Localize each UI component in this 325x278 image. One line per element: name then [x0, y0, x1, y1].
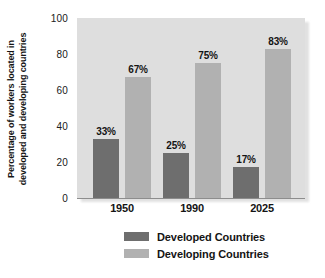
y-axis-ticks: 100806040200	[38, 12, 72, 204]
bar-value-label: 33%	[96, 126, 115, 137]
bar-group: 33%67%	[89, 18, 155, 198]
legend-item-developed-countries[interactable]: Developed Countries	[124, 228, 314, 245]
bar-developing-countries-1990: 75%	[195, 63, 221, 198]
x-tick-label-2025: 2025	[250, 202, 274, 214]
bar-developing-countries-1950: 67%	[125, 77, 151, 198]
x-tick-label-1990: 1990	[180, 202, 204, 214]
bar-developed-countries-1950: 33%	[93, 139, 119, 198]
y-tick-label: 100	[51, 13, 68, 24]
x-tick-label-1950: 1950	[110, 202, 134, 214]
bars-container: 33%67%25%75%17%83%	[77, 18, 305, 198]
bar-value-label: 25%	[166, 140, 185, 151]
chart-legend: Developed CountriesDeveloping Countries	[124, 228, 314, 262]
y-axis-label-line1: Percentage of workers located in	[6, 40, 16, 178]
bar-value-label: 17%	[236, 154, 255, 165]
bar-value-label: 75%	[198, 50, 217, 61]
bar-value-label: 67%	[128, 64, 147, 75]
legend-swatch-icon	[124, 249, 149, 258]
y-tick-label: 0	[62, 193, 68, 204]
y-tick-label: 80	[56, 49, 68, 60]
legend-label: Developing Countries	[157, 248, 269, 260]
legend-item-developing-countries[interactable]: Developing Countries	[124, 245, 314, 262]
bar-value-label: 83%	[268, 36, 287, 47]
bar-chart-figure: Percentage of workers located in develop…	[0, 0, 325, 278]
x-axis-line	[77, 198, 305, 199]
y-axis-label-line2: developed and developing countries	[17, 33, 29, 186]
y-axis-label: Percentage of workers located in develop…	[0, 14, 34, 204]
bar-group: 25%75%	[159, 18, 225, 198]
y-tick-label: 40	[56, 121, 68, 132]
legend-swatch-icon	[124, 232, 149, 241]
x-axis-ticks: 195019902025	[77, 202, 305, 218]
y-tick-label: 60	[56, 85, 68, 96]
legend-label: Developed Countries	[157, 231, 265, 243]
bar-group: 17%83%	[229, 18, 295, 198]
bar-developed-countries-1990: 25%	[163, 153, 189, 198]
bar-developed-countries-2025: 17%	[233, 167, 259, 198]
bar-developing-countries-2025: 83%	[265, 49, 291, 198]
y-tick-label: 20	[56, 157, 68, 168]
plot-area: 33%67%25%75%17%83%	[77, 18, 305, 198]
